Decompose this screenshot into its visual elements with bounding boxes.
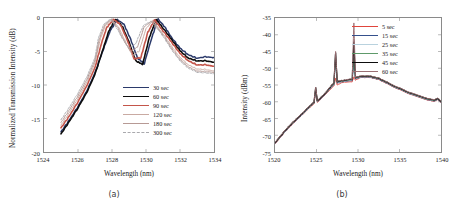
x-tick-label: 1530 — [140, 156, 153, 163]
legend-color-swatch — [123, 96, 149, 97]
legend-item-label: 60 sec — [382, 68, 398, 75]
legend-color-swatch — [352, 26, 378, 27]
legend-item-label: 90 sec — [153, 102, 169, 109]
legend-item: 25 sec — [352, 40, 398, 49]
panel-a-y-axis-label: Normalized Transmission Intensity (dB) — [9, 28, 17, 148]
legend-color-swatch — [352, 53, 378, 54]
legend-item: 35 sec — [352, 49, 398, 58]
y-tick-label: -15 — [18, 116, 40, 123]
legend-color-swatch — [352, 71, 378, 72]
y-tick-label: -10 — [18, 82, 40, 89]
x-tick-label: 1528 — [105, 156, 118, 163]
x-tick-label: 1535 — [394, 156, 407, 163]
panel-b-caption: (b) — [228, 190, 456, 199]
legend-color-swatch — [123, 87, 149, 88]
y-tick-label: -35 — [248, 14, 271, 21]
legend-item-label: 180 sec — [153, 120, 172, 127]
panel-a: Normalized Transmission Intensity (dB) 0… — [0, 0, 228, 210]
x-tick-label: 1525 — [310, 156, 323, 163]
y-tick-label: -60 — [248, 99, 271, 106]
legend-color-swatch — [352, 44, 378, 45]
legend-item-label: 45 sec — [382, 59, 398, 66]
x-tick-label: 1532 — [174, 156, 187, 163]
legend-item: 60 sec — [352, 67, 398, 76]
y-tick-label: -5 — [18, 48, 40, 55]
y-tick-label: -70 — [248, 133, 271, 140]
legend-item: 30 sec — [123, 83, 172, 92]
legend-item-label: 60 sec — [153, 93, 169, 100]
x-tick-label: 1534 — [209, 156, 222, 163]
legend-item: 45 sec — [352, 58, 398, 67]
panel-a-caption: (a) — [0, 190, 228, 199]
legend-item-label: 300 sec — [153, 129, 172, 136]
y-tick-label: -55 — [248, 82, 271, 89]
x-tick-label: 1530 — [352, 156, 365, 163]
legend-item-label: 120 sec — [153, 111, 172, 118]
legend-color-swatch — [123, 105, 149, 106]
legend-item: 15 sec — [352, 31, 398, 40]
y-tick-label: -45 — [248, 48, 271, 55]
legend-item: 60 sec — [123, 92, 172, 101]
panel-b: Intensity (dBm) -35-40-45-50-55-60-65-70… — [228, 0, 456, 210]
legend-item: 180 sec — [123, 119, 172, 128]
panel-a-legend: 30 sec60 sec90 sec120 sec180 sec300 sec — [123, 83, 172, 137]
legend-color-swatch — [352, 35, 378, 36]
x-tick-label: 1526 — [71, 156, 84, 163]
legend-item-label: 35 sec — [382, 50, 398, 57]
y-tick-label: -40 — [248, 31, 271, 38]
legend-item: 5 sec — [352, 22, 398, 31]
legend-color-swatch — [352, 62, 378, 63]
legend-item: 300 sec — [123, 128, 172, 137]
panel-b-x-axis-label: Wavelength (nm) — [274, 170, 442, 178]
y-tick-label: 0 — [18, 14, 40, 21]
legend-color-swatch — [123, 114, 149, 115]
legend-color-swatch — [123, 123, 149, 124]
panel-a-x-axis-label: Wavelength (nm) — [43, 170, 215, 178]
figure-container: Normalized Transmission Intensity (dB) 0… — [0, 0, 457, 210]
legend-item-label: 25 sec — [382, 41, 398, 48]
panel-b-legend: 5 sec15 sec25 sec35 sec45 sec60 sec — [352, 22, 398, 76]
x-tick-label: 1540 — [436, 156, 449, 163]
legend-item-label: 5 sec — [382, 23, 395, 30]
legend-item: 90 sec — [123, 101, 172, 110]
y-tick-label: -65 — [248, 116, 271, 123]
legend-color-swatch — [123, 132, 149, 133]
x-tick-label: 1524 — [37, 156, 50, 163]
x-tick-label: 1520 — [268, 156, 281, 163]
legend-item: 120 sec — [123, 110, 172, 119]
legend-item-label: 30 sec — [153, 84, 169, 91]
y-tick-label: -50 — [248, 65, 271, 72]
legend-item-label: 15 sec — [382, 32, 398, 39]
